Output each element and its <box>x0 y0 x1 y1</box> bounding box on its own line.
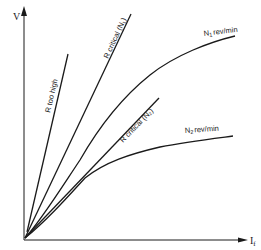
r-critical-n1-label: R critical (N₁) <box>102 16 129 60</box>
x-axis-label: If <box>250 235 256 248</box>
r-too-high-label: R too high <box>43 78 59 113</box>
x-axis-arrow-icon <box>238 238 248 243</box>
y-axis-arrow-icon <box>21 6 27 16</box>
r-critical-n2-line: R critical (N₂) <box>25 98 159 238</box>
n2-curve-label: N2rev/min <box>185 124 220 136</box>
r-critical-n2-label: R critical (N₂) <box>118 106 155 144</box>
y-axis: V <box>13 6 27 240</box>
n2-curve: N2rev/min <box>25 124 233 238</box>
r-critical-n1-line: R critical (N₁) <box>25 14 131 238</box>
magnetization-diagram: V If R too high R critical (N₁) N1rev/mi… <box>0 0 261 250</box>
x-axis: If <box>24 235 256 248</box>
y-axis-label: V <box>13 11 21 22</box>
r-too-high-line: R too high <box>27 54 68 232</box>
